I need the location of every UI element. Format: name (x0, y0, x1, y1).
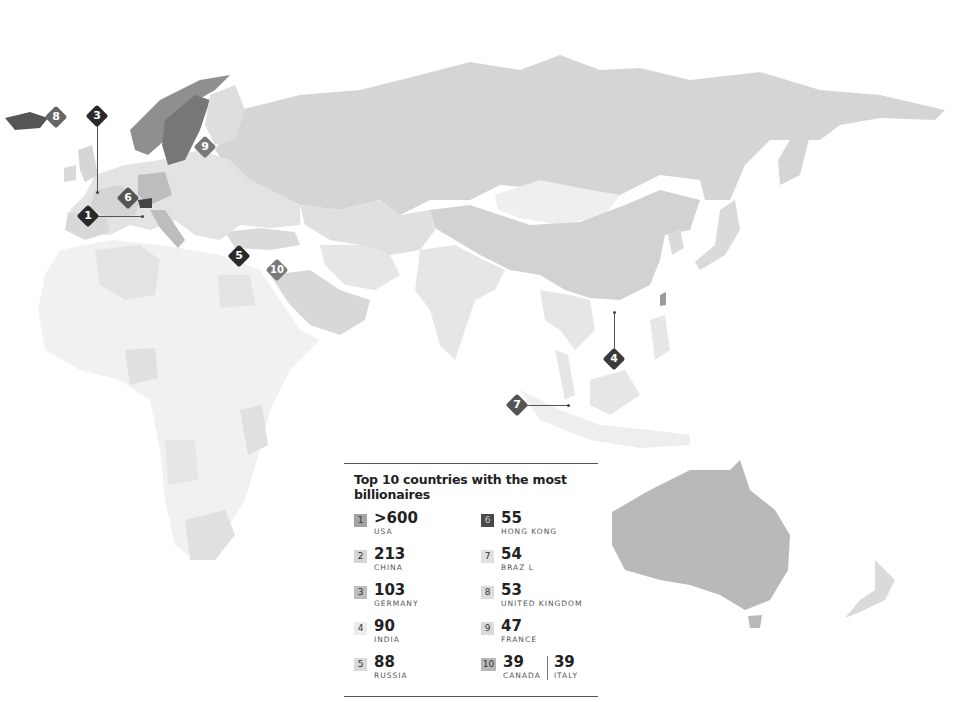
legend-entry-9: 9 47FRANCE (481, 618, 598, 654)
region-philippines (650, 315, 670, 360)
country-name: INDIA (374, 635, 400, 645)
marker-1[interactable]: 1 (77, 205, 99, 227)
country-name: CANADA (503, 671, 541, 681)
leader-dot-7 (567, 404, 570, 407)
marker-8[interactable]: 8 (45, 106, 67, 128)
billionaire-count: 47 (501, 618, 537, 634)
country-name: BRAZ L (501, 563, 534, 573)
marker-7[interactable]: 7 (506, 394, 528, 416)
rank-badge: 4 (354, 622, 367, 635)
legend-entry-3: 3 103GERMANY (354, 582, 471, 618)
rank-badge: 8 (481, 586, 494, 599)
region-indochina (540, 290, 595, 350)
rank-badge: 1 (354, 514, 367, 527)
billionaire-count: >600 (374, 510, 418, 526)
region-iceland (5, 112, 48, 130)
leader-dot-4 (613, 311, 616, 314)
legend-title: Top 10 countries with the most billionai… (354, 472, 598, 502)
billionaire-count: 55 (501, 510, 557, 526)
region-ireland (64, 165, 76, 182)
region-africa (38, 240, 320, 560)
region-japan (695, 200, 740, 270)
legend-entry-5: 5 88RUSSIA (354, 654, 471, 690)
marker-3[interactable]: 3 (86, 105, 108, 127)
country-name: UNITED KINGDOM (501, 599, 583, 609)
billionaire-count: 103 (374, 582, 419, 598)
legend-entry-10: 10 39CANADA 39ITALY (481, 654, 598, 690)
rank-badge: 2 (354, 550, 367, 563)
billionaire-count: 53 (501, 582, 583, 598)
region-angola (165, 440, 198, 485)
rank-badge: 9 (481, 622, 494, 635)
region-borneo (590, 370, 640, 415)
divider (547, 656, 548, 680)
leader-line-1 (96, 216, 142, 217)
region-australia (612, 460, 790, 610)
region-tasmania (748, 615, 762, 628)
country-name: CHINA (374, 563, 405, 573)
billionaire-count-2: 39 (554, 654, 578, 670)
legend-entry-1: 1 >600USA (354, 510, 471, 546)
leader-line-4 (614, 312, 615, 350)
legend-entry-7: 7 54BRAZ L (481, 546, 598, 582)
legend-panel: Top 10 countries with the most billionai… (344, 463, 598, 697)
billionaire-count: 213 (374, 546, 405, 562)
leader-dot-3 (96, 191, 99, 194)
leader-line-3 (97, 126, 98, 192)
leader-dot-1 (141, 215, 144, 218)
leader-line-7 (526, 405, 568, 406)
billionaire-count: 39 (503, 654, 541, 670)
rank-badge: 10 (481, 658, 496, 671)
country-name: GERMANY (374, 599, 419, 609)
rank-badge: 6 (481, 514, 494, 527)
billionaire-count: 54 (501, 546, 534, 562)
region-central-asia (300, 200, 435, 255)
region-new-zealand (845, 560, 895, 618)
country-name: USA (374, 527, 418, 537)
country-name: RUSSIA (374, 671, 408, 681)
marker-10[interactable]: 10 (266, 259, 288, 281)
rank-badge: 3 (354, 586, 367, 599)
billionaire-count: 88 (374, 654, 408, 670)
marker-6[interactable]: 6 (117, 187, 139, 209)
country-name: HONG KONG (501, 527, 557, 537)
country-name: FRANCE (501, 635, 537, 645)
billionaire-count: 90 (374, 618, 400, 634)
region-kamchatka (778, 135, 810, 185)
rank-badge: 5 (354, 658, 367, 671)
rank-badge: 7 (481, 550, 494, 563)
legend-entry-8: 8 53UNITED KINGDOM (481, 582, 598, 618)
marker-5[interactable]: 5 (228, 245, 250, 267)
marker-4[interactable]: 4 (603, 348, 625, 370)
marker-9[interactable]: 9 (194, 136, 216, 158)
country-name-2: ITALY (554, 671, 578, 681)
region-uk (78, 145, 98, 182)
legend-column-left: 1 >600USA 2 213CHINA 3 103GERMANY 4 90IN… (344, 510, 471, 690)
legend-column-right: 6 55HONG KONG 7 54BRAZ L 8 53UNITED KING… (471, 510, 598, 690)
region-egypt (218, 275, 255, 308)
region-taiwan (660, 292, 666, 306)
region-malay (555, 350, 575, 400)
legend-entry-4: 4 90INDIA (354, 618, 471, 654)
legend-entry-6: 6 55HONG KONG (481, 510, 598, 546)
legend-entry-2: 2 213CHINA (354, 546, 471, 582)
region-india (415, 245, 505, 360)
